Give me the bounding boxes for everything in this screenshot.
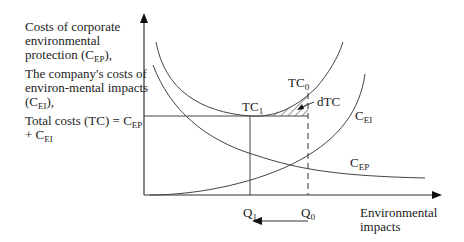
tc0-label: TC0	[288, 75, 310, 92]
tc1-label: TC1	[242, 99, 263, 116]
cost-diagram: TC0 TC1 dTC CEI CEP Q1 Q0 Environmental …	[0, 0, 464, 242]
cei-curve	[150, 74, 365, 195]
x-axis-arrow-icon	[432, 191, 442, 199]
x-axis-label-line1: Environmental	[360, 205, 438, 220]
q0-label: Q0	[301, 205, 315, 222]
y-axis-arrow-icon	[140, 13, 148, 23]
dtc-label: dTC	[317, 94, 340, 109]
x-axis-label-line2: impacts	[360, 219, 400, 234]
cep-label: CEP	[350, 155, 369, 172]
q1-label: Q1	[243, 205, 257, 222]
cei-label: CEI	[355, 108, 372, 125]
